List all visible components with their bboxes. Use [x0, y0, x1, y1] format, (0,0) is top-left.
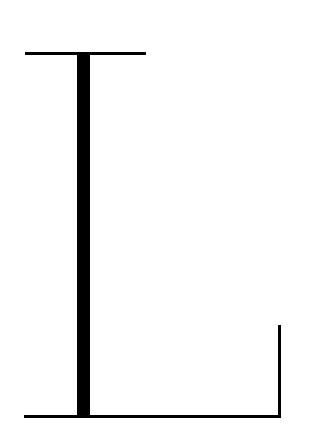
- thick-stem: [77, 54, 90, 418]
- baseline: [24, 415, 281, 418]
- right-post: [278, 325, 281, 418]
